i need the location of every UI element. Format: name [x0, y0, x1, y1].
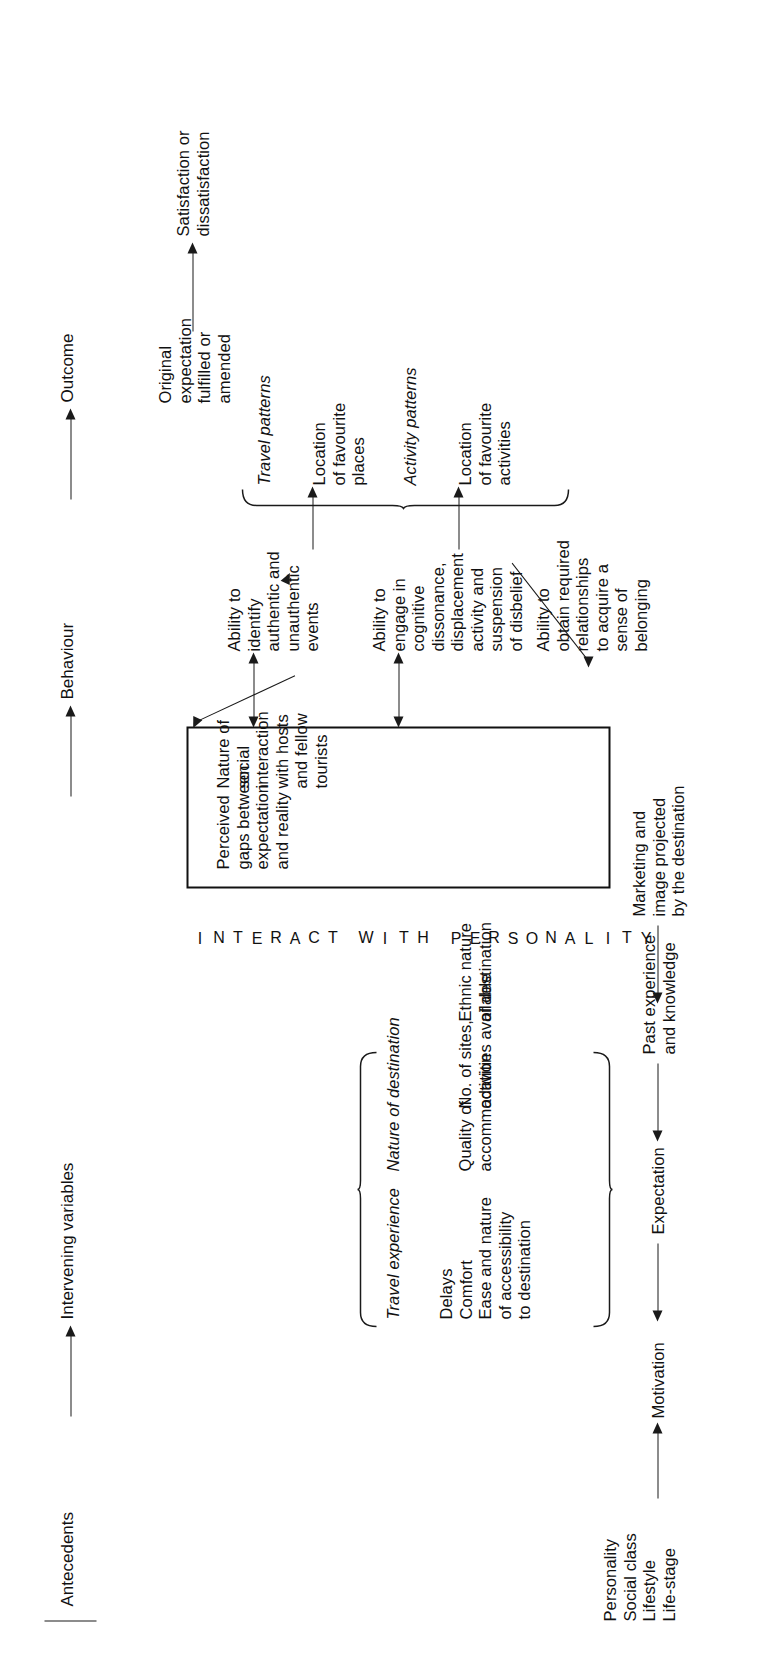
band-letter: S: [507, 928, 518, 947]
arrow-expectation-to-satisfaction-head: [187, 242, 197, 253]
marketing-node: Marketing and image projected by the des…: [629, 785, 688, 916]
satisfaction-node: Satisfaction or dissatisfaction: [173, 130, 212, 236]
axis-arrow-intervening: [65, 1325, 75, 1336]
travel-patterns-items: Location of favourite places: [309, 402, 368, 485]
link-box-identify-head-left: [248, 716, 258, 727]
band-letter: P: [450, 928, 461, 947]
arrow-expectation-to-motivation-head: [652, 1310, 662, 1321]
band-letter: Y: [640, 928, 651, 947]
link-box-engage-line: [398, 661, 399, 717]
travel-experience-title: Travel experience: [383, 1187, 403, 1319]
arrow-past-to-expectation-head: [652, 1130, 662, 1141]
band-letter: T: [328, 928, 338, 947]
travel-patterns-title: Travel patterns: [254, 375, 274, 485]
axis-line-intervening: [70, 1334, 71, 1416]
axis-arrow-outcome: [65, 408, 75, 419]
arrow-expectation-to-motivation-line: [657, 1243, 658, 1311]
diagram-canvas: Antecedents Intervening variables Behavi…: [0, 0, 771, 1661]
header-outcome: Outcome: [57, 333, 77, 402]
header-antecedents: Antecedents: [57, 1511, 77, 1606]
travel-experience-items: Delays Comfort Ease and nature of access…: [436, 1196, 534, 1319]
band-letter: A: [564, 928, 575, 947]
antecedents-axis-tick: [44, 1620, 96, 1621]
interact-letter-column: INTERACTWITHPERSONALITY: [190, 930, 655, 945]
arrow-traits-to-motivation-head: [652, 1422, 662, 1433]
link-box-identify-head-right: [248, 652, 258, 663]
band-letter: R: [270, 928, 282, 947]
ability-engage: Ability to engage in cognitive dissonanc…: [369, 553, 525, 651]
original-expectation-node: Original expectation fulfilled or amende…: [155, 318, 233, 404]
link-box-engage-head-left: [393, 716, 403, 727]
ability-obtain: Ability to obtain required relationships…: [533, 539, 650, 651]
arrow-expectation-to-satisfaction-line: [192, 251, 193, 331]
link-obtain-behaviour-head: [583, 656, 593, 667]
band-letter: L: [584, 928, 593, 947]
band-letter: T: [399, 928, 409, 947]
link-box-identify-line: [253, 661, 254, 717]
band-letter: I: [197, 928, 201, 947]
arrow-traits-to-motivation-line: [657, 1430, 658, 1498]
band-letter: H: [417, 928, 429, 947]
arrow-past-to-expectation-line: [657, 1063, 658, 1131]
band-letter: T: [233, 928, 243, 947]
nature-of-destination-title: Nature of destination: [383, 1017, 403, 1171]
band-letter: W: [358, 928, 373, 947]
header-intervening-variables: Intervening variables: [57, 1162, 77, 1319]
band-letter: I: [605, 928, 609, 947]
axis-line-behaviour: [70, 714, 71, 796]
band-letter: T: [622, 928, 632, 947]
link-box-engage-head-right: [393, 652, 403, 663]
arrow-marketing-to-past-head: [652, 992, 662, 1003]
activity-patterns-items: Location of favourite activities: [455, 402, 514, 485]
band-letter: O: [525, 928, 537, 947]
activity-patterns-title: Activity patterns: [400, 367, 420, 485]
band-letter: N: [213, 928, 225, 947]
axis-line-outcome: [70, 417, 71, 499]
intervening-brace-top: [356, 1050, 378, 1328]
expectation-node: Expectation: [648, 1147, 668, 1234]
intervening-brace-bottom: [591, 1050, 613, 1328]
band-letter: E: [251, 928, 262, 947]
ability-identify: Ability to identify authentic and unauth…: [224, 551, 322, 651]
band-letter: R: [488, 928, 500, 947]
social-interaction-item: Nature of social interaction with hosts …: [213, 711, 330, 788]
antecedents-traits: Personality Social class Lifestyle Life-…: [600, 1533, 678, 1621]
arrow-marketing-to-past-line: [657, 925, 658, 993]
band-letter: E: [469, 928, 480, 947]
behaviour-brace: [240, 487, 570, 509]
header-behaviour: Behaviour: [57, 622, 77, 699]
axis-arrow-behaviour: [65, 705, 75, 716]
band-letter: C: [308, 928, 320, 947]
band-letter: A: [289, 928, 300, 947]
band-letter: N: [545, 928, 557, 947]
motivation-node: Motivation: [648, 1342, 668, 1418]
band-letter: I: [382, 928, 386, 947]
